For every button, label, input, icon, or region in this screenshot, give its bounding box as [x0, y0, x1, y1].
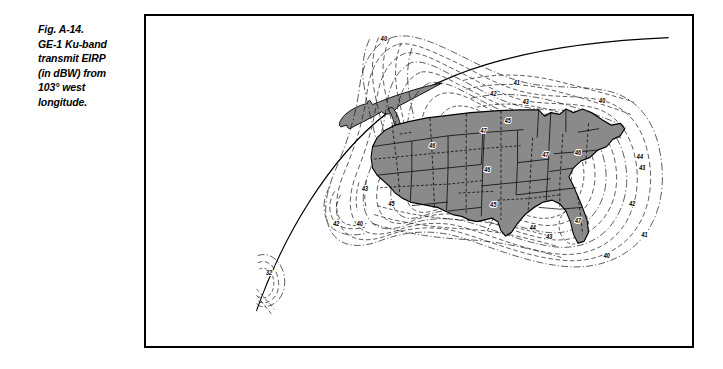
caption-line-1: Fig. A-14.: [38, 22, 142, 37]
contour-label: 45: [388, 200, 396, 206]
figure-caption: Fig. A-14. GE-1 Ku-band transmit EIRP (i…: [38, 22, 142, 110]
contour-label: 40: [598, 97, 606, 103]
contour-west-lobe-b: [324, 186, 367, 235]
contour-label: 45: [504, 118, 512, 124]
state-border-dashed-14: [487, 218, 493, 231]
contour-label: 44: [636, 154, 644, 160]
map-frame: 4040414142424343404045454747464646464444…: [144, 14, 694, 348]
caption-line-5: 103° west: [38, 80, 142, 95]
contour-north-lobe-a: [372, 37, 384, 135]
contour-label: 40: [380, 36, 388, 42]
contour-label: 40: [603, 253, 611, 259]
contour-label: 47: [574, 217, 582, 223]
contour-label: 40: [356, 221, 364, 227]
contour-label: 43: [522, 98, 530, 104]
contour-label: 32: [266, 270, 273, 276]
caption-line-4: (in dBW) from: [38, 66, 142, 81]
contour-label: 43: [361, 186, 369, 192]
contour-label: 42: [489, 90, 497, 96]
contour-label: 41: [640, 231, 647, 237]
contour-label: 44: [529, 224, 537, 230]
contour-north-lobe-b: [383, 39, 395, 134]
contour-label: 41: [513, 79, 520, 85]
conus-landmass: [371, 109, 625, 243]
contour-label: 46: [428, 143, 436, 149]
contour-label: 42: [332, 221, 340, 227]
contour-label: 46: [483, 167, 491, 173]
contour-label: 47: [542, 152, 550, 158]
contour-label: 42: [628, 201, 636, 207]
contour-label: 43: [638, 164, 646, 170]
figure-container: Fig. A-14. GE-1 Ku-band transmit EIRP (i…: [0, 0, 723, 369]
contour-west-neck: [356, 182, 359, 211]
contour-label: 47: [480, 128, 488, 134]
contour-label: 43: [545, 233, 553, 239]
contour-label: 45: [489, 202, 497, 208]
caption-line-6: longitude.: [38, 95, 142, 110]
eirp-contour-map: 4040414142424343404045454747464646464444…: [146, 16, 692, 346]
caption-line-2: GE-1 Ku-band: [38, 37, 142, 52]
caption-line-3: transmit EIRP: [38, 51, 142, 66]
contour-label: 46: [574, 149, 582, 155]
